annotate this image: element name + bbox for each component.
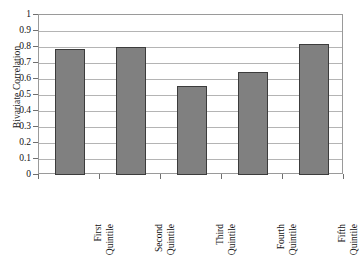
x-axis-label: FifthQuintile [300,180,326,228]
x-axis-label: SecondQuintile [117,180,143,228]
y-axis-tick-mark [33,158,38,159]
y-axis-tick-mark [33,62,38,63]
x-axis-tick-mark [343,174,344,179]
x-axis-label-line: Fifth [337,224,347,259]
x-axis-label: ThirdQuintile [178,180,204,228]
x-axis-tick-mark [221,174,222,179]
x-axis-label-line: Fourth [276,224,286,259]
x-axis-tick-mark [282,174,283,179]
y-axis-tick-label: 0.9 [1,25,31,35]
bar [299,44,329,175]
bar [55,49,85,175]
y-axis-tick-label: 0.2 [1,137,31,147]
x-axis-label-line: Quintile [349,224,359,259]
y-axis-tick-label: 0.5 [1,89,31,99]
y-axis-tick-mark [33,46,38,47]
x-axis-label: FirstQuintile [56,180,82,228]
y-axis-tick-label: 0 [1,169,31,179]
x-axis-label-line: Second [154,224,164,259]
y-axis-tick-label: 0.8 [1,41,31,51]
bar [177,86,207,175]
y-axis-tick-mark [33,14,38,15]
x-axis-label-line: Quintile [166,224,176,259]
y-axis-tick-mark [33,94,38,95]
bar [116,47,146,175]
y-axis-tick-label: 0.4 [1,105,31,115]
y-axis-tick-label: 0.6 [1,73,31,83]
x-axis-label-line: Third [215,224,225,259]
x-axis-tick-mark [160,174,161,179]
gridline [39,31,342,32]
y-axis-tick-label: 0.3 [1,121,31,131]
y-axis-tick-mark [33,110,38,111]
x-axis-tick-mark [99,174,100,179]
y-axis-tick-mark [33,126,38,127]
y-axis-tick-label: 0.1 [1,153,31,163]
y-axis-tick-label: 0.7 [1,57,31,67]
plot-area [38,14,343,174]
x-axis-tick-mark [38,174,39,179]
x-axis-label-line: Quintile [288,224,298,259]
y-axis-tick-label: 1 [1,9,31,19]
bar [238,72,268,175]
x-axis-label-line: Quintile [227,224,237,259]
y-axis-tick-mark [33,142,38,143]
x-axis-label-line: Quintile [105,224,115,259]
y-axis-tick-mark [33,30,38,31]
x-axis-label-line: First [93,224,103,259]
y-axis-tick-mark [33,78,38,79]
x-axis-label: FourthQuintile [239,180,265,228]
